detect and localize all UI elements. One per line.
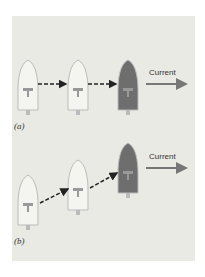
current-label-b: Current: [149, 152, 176, 161]
panel-label-b: (b): [14, 236, 25, 246]
panel-a-boats: [18, 60, 138, 115]
diagram-graphics: [0, 0, 205, 277]
current-label-a: Current: [149, 68, 176, 77]
panel-b-boats: [18, 143, 138, 230]
panel-label-a: (a): [14, 121, 25, 131]
figure: Current (a) Current (b): [0, 0, 205, 277]
